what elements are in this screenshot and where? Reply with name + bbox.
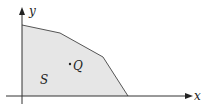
y-axis-arrow-icon	[19, 7, 25, 15]
point-q-marker	[69, 63, 71, 65]
region-label-s: S	[40, 73, 48, 87]
point-label-q: Q	[73, 59, 83, 73]
x-axis-label: x	[194, 89, 201, 103]
y-axis-label: y	[28, 4, 36, 18]
feasible-region-diagram: y x S Q	[0, 0, 201, 110]
x-axis-arrow-icon	[185, 93, 193, 99]
